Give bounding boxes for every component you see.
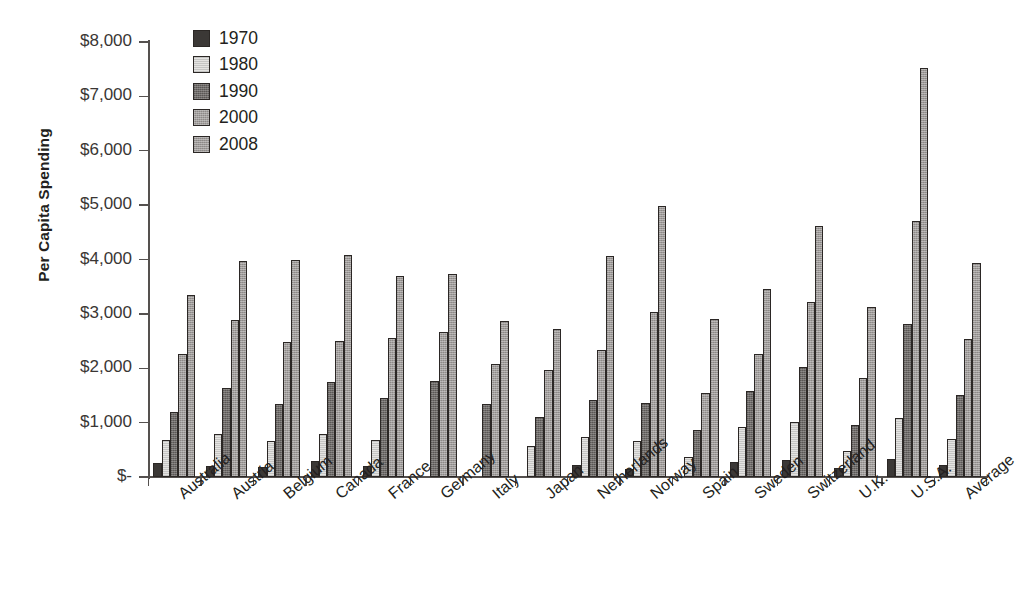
bar-group xyxy=(677,42,718,477)
bar[interactable] xyxy=(448,274,457,477)
bar[interactable] xyxy=(335,341,343,477)
legend-swatch-icon xyxy=(193,30,210,47)
bar[interactable] xyxy=(887,459,895,477)
bar[interactable] xyxy=(396,276,404,477)
bar[interactable] xyxy=(738,427,746,477)
bar-group xyxy=(782,42,823,477)
y-axis-tick-label: $2,000 xyxy=(8,357,132,377)
bar-chart: Per Capita Spending $8,000$7,000$6,000$5… xyxy=(0,0,1016,596)
bar-group xyxy=(258,42,299,477)
legend-item[interactable]: 2008 xyxy=(193,134,258,154)
bar[interactable] xyxy=(275,404,283,477)
bar-group-bars xyxy=(363,42,404,477)
legend-swatch-icon xyxy=(193,83,210,100)
y-axis-tick xyxy=(139,313,148,314)
legend-item-label: 1990 xyxy=(219,83,258,100)
bar-group xyxy=(834,42,875,477)
bar[interactable] xyxy=(283,342,291,477)
y-axis-tick xyxy=(139,476,148,477)
legend-item[interactable]: 2000 xyxy=(193,108,258,128)
bar[interactable] xyxy=(895,418,903,477)
bar[interactable] xyxy=(231,320,239,477)
x-axis-tick xyxy=(148,477,149,486)
y-axis-tick-label: $1,000 xyxy=(8,412,132,432)
bar[interactable] xyxy=(754,354,762,477)
bar[interactable] xyxy=(763,289,771,477)
legend-item-label: 2008 xyxy=(219,136,258,153)
bar-group xyxy=(415,42,456,477)
bar-group-bars xyxy=(258,42,299,477)
bar[interactable] xyxy=(170,412,178,477)
bar[interactable] xyxy=(815,226,823,477)
bar[interactable] xyxy=(701,393,710,477)
y-axis-tick-label: $8,000 xyxy=(8,31,132,51)
bar[interactable] xyxy=(710,319,719,477)
bar[interactable] xyxy=(162,440,170,477)
bar-group xyxy=(572,42,613,477)
bar-group-bars xyxy=(887,42,928,477)
bar[interactable] xyxy=(956,395,964,477)
legend: 19701980199020002008 xyxy=(193,28,258,154)
legend-swatch-icon xyxy=(193,109,210,126)
legend-swatch-icon xyxy=(193,56,210,73)
legend-item[interactable]: 1990 xyxy=(193,81,258,101)
bar[interactable] xyxy=(439,332,448,477)
bar-group-bars xyxy=(311,42,352,477)
bar-group-bars xyxy=(939,42,980,477)
y-axis-tick xyxy=(139,259,148,260)
bar[interactable] xyxy=(500,321,509,477)
bar-group-bars xyxy=(415,42,456,477)
bar[interactable] xyxy=(964,339,972,477)
bar-group xyxy=(730,42,771,477)
bar-group-bars xyxy=(782,42,823,477)
bar[interactable] xyxy=(903,324,911,477)
bar-group xyxy=(311,42,352,477)
legend-swatch-icon xyxy=(193,136,210,153)
bar[interactable] xyxy=(920,68,928,477)
y-axis-tick-label: $3,000 xyxy=(8,303,132,323)
bar[interactable] xyxy=(912,221,920,477)
legend-item[interactable]: 1970 xyxy=(193,28,258,48)
bar-group-bars xyxy=(520,42,561,477)
bar-group-bars xyxy=(834,42,875,477)
y-axis-tick-label: $7,000 xyxy=(8,85,132,105)
bar[interactable] xyxy=(553,329,562,477)
bar-group xyxy=(520,42,561,477)
bar-group xyxy=(625,42,666,477)
bar-group xyxy=(363,42,404,477)
bar[interactable] xyxy=(544,370,553,477)
y-axis-tick xyxy=(139,41,148,42)
bar[interactable] xyxy=(535,417,544,477)
bar[interactable] xyxy=(597,350,605,477)
bar[interactable] xyxy=(388,338,396,477)
bar-group-bars xyxy=(153,42,194,477)
bar-group-bars xyxy=(677,42,718,477)
bar-group xyxy=(939,42,980,477)
bar[interactable] xyxy=(178,354,186,477)
bar-group-bars xyxy=(468,42,509,477)
bar[interactable] xyxy=(807,302,815,477)
y-axis-tick xyxy=(139,204,148,205)
bar[interactable] xyxy=(972,263,980,477)
bar[interactable] xyxy=(291,260,299,478)
bar[interactable] xyxy=(746,391,754,477)
bar-group xyxy=(468,42,509,477)
bar[interactable] xyxy=(606,256,614,477)
bar[interactable] xyxy=(344,255,352,477)
y-axis-tick xyxy=(139,368,148,369)
y-axis-tick xyxy=(139,150,148,151)
bar-group-bars xyxy=(730,42,771,477)
bar[interactable] xyxy=(589,400,597,477)
bar-group xyxy=(887,42,928,477)
bar-group-bars xyxy=(572,42,613,477)
bar[interactable] xyxy=(430,381,439,477)
legend-item[interactable]: 1980 xyxy=(193,55,258,75)
legend-item-label: 1980 xyxy=(219,56,258,73)
bar[interactable] xyxy=(153,463,161,477)
bar-group xyxy=(153,42,194,477)
plot-area xyxy=(148,42,986,477)
bar[interactable] xyxy=(187,295,195,477)
bar[interactable] xyxy=(239,261,247,477)
bar[interactable] xyxy=(527,446,536,477)
y-axis-tick-label: $- xyxy=(8,466,132,486)
